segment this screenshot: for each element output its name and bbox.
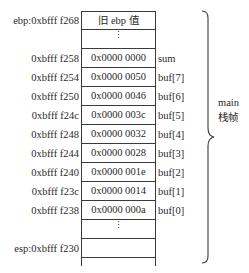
address-label: 0xbfff f24c bbox=[32, 106, 79, 125]
address-label: 0xbfff f248 bbox=[31, 125, 79, 144]
stack-cell: 0x0000 0050 bbox=[81, 68, 156, 87]
address-label: 0xbfff f23c bbox=[32, 182, 79, 201]
stack-cell: 0x0000 0014 bbox=[81, 182, 156, 201]
variable-label: buf[4] bbox=[158, 125, 184, 144]
stack-cell: 0x0000 000a bbox=[81, 201, 156, 220]
vertical-ellipsis-icon: ⋮ bbox=[82, 220, 155, 228]
stack-cell: 0x0000 003c bbox=[81, 106, 156, 125]
address-label: 0xbfff f258 bbox=[31, 49, 79, 68]
stack-cell: 0x0000 0000 bbox=[81, 49, 156, 68]
stack-cell: 0x0000 0028 bbox=[81, 144, 156, 163]
address-label: ebp:0xbfff f268 bbox=[13, 11, 79, 30]
stack-ellipsis-cell: ⋮ bbox=[81, 220, 156, 239]
stack-cell: 0x0000 001e bbox=[81, 163, 156, 182]
frame-label-function: main bbox=[218, 95, 239, 110]
stack-continuation bbox=[81, 258, 156, 266]
address-label: 0xbfff f254 bbox=[31, 68, 79, 87]
variable-label: buf[5] bbox=[158, 106, 184, 125]
frame-label: main 栈帧 bbox=[218, 95, 239, 125]
stack-cell: 0x0000 0046 bbox=[81, 87, 156, 106]
address-label: esp:0xbfff f230 bbox=[14, 239, 79, 258]
variable-label: buf[1] bbox=[158, 182, 184, 201]
stack-ellipsis-cell: ⋮ bbox=[81, 30, 156, 49]
stack-cell: 旧 ebp 值 bbox=[81, 11, 156, 30]
variable-label: buf[0] bbox=[158, 201, 184, 220]
vertical-ellipsis-icon: ⋮ bbox=[82, 30, 155, 38]
frame-label-caption: 栈帧 bbox=[218, 110, 239, 125]
address-label: 0xbfff f244 bbox=[31, 144, 79, 163]
variable-label: buf[7] bbox=[158, 68, 184, 87]
variable-label: sum bbox=[158, 49, 176, 68]
stack-cell bbox=[81, 239, 156, 258]
stack-frame-table: 旧 ebp 值⋮0x0000 00000x0000 00500x0000 004… bbox=[81, 11, 156, 266]
stack-cell: 0x0000 0032 bbox=[81, 125, 156, 144]
variable-label: buf[2] bbox=[158, 163, 184, 182]
address-label: 0xbfff f240 bbox=[31, 163, 79, 182]
variable-label: buf[6] bbox=[158, 87, 184, 106]
address-label: 0xbfff f250 bbox=[31, 87, 79, 106]
variable-label: buf[3] bbox=[158, 144, 184, 163]
curly-brace-icon bbox=[200, 10, 220, 265]
address-label: 0xbfff f238 bbox=[31, 201, 79, 220]
